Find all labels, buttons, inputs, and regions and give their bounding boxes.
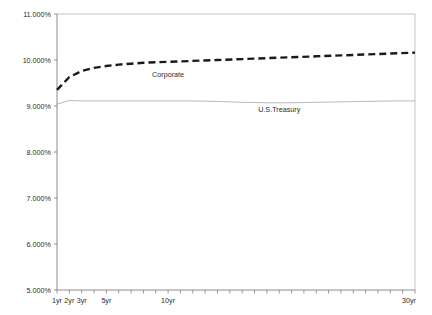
x-tick-label: 30yr: [402, 296, 417, 305]
chart-canvas: 11.000%10.000%9.000%8.000%7.000%6.000%5.…: [0, 0, 432, 315]
yield-curve-chart: 11.000%10.000%9.000%8.000%7.000%6.000%5.…: [0, 0, 432, 315]
series-label-0: Corporate: [152, 70, 184, 79]
x-tick-label: 2yr: [64, 296, 75, 305]
x-tick-label: 5yr: [101, 296, 112, 305]
x-tick-label: 1yr: [52, 296, 63, 305]
y-tick-label: 5.000%: [27, 286, 52, 295]
x-tick-label: 3yr: [77, 296, 88, 305]
x-tick-label: 10yr: [161, 296, 176, 305]
chart-background: [0, 0, 432, 315]
y-tick-label: 6.000%: [27, 240, 52, 249]
y-tick-label: 9.000%: [27, 102, 52, 111]
y-tick-label: 10.000%: [23, 56, 52, 65]
y-tick-label: 7.000%: [27, 194, 52, 203]
series-label-1: U.S.Treasury: [258, 105, 300, 114]
y-tick-label: 8.000%: [27, 148, 52, 157]
y-tick-label: 11.000%: [23, 10, 51, 19]
